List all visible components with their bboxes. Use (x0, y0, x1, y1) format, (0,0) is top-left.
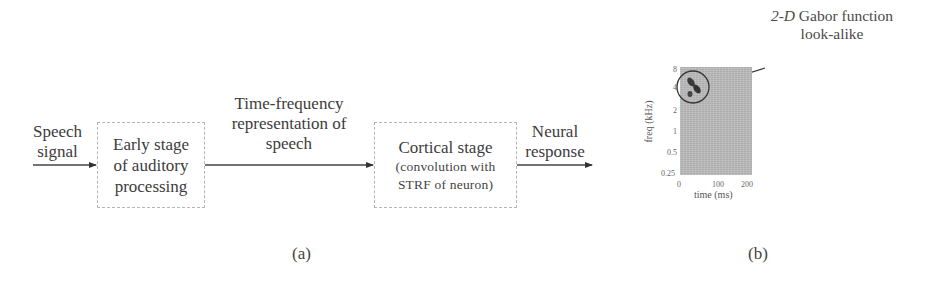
ytick-0.25: 0.25 (661, 169, 675, 178)
caption-b: (b) (748, 244, 768, 264)
x-axis-label: time (ms) (694, 189, 733, 200)
xtick-0: 0 (677, 180, 681, 189)
ytick-1: 1 (673, 127, 677, 136)
ytick-0.5: 0.5 (667, 148, 677, 157)
ytick-2: 2 (673, 106, 677, 115)
gabor-overlay (0, 0, 928, 285)
gabor-blob-3 (688, 91, 693, 97)
ytick-4: 4 (673, 83, 677, 92)
xtick-200: 200 (741, 180, 753, 189)
highlight-circle (677, 71, 709, 103)
xtick-100: 100 (712, 180, 724, 189)
ytick-8: 8 (673, 65, 677, 74)
y-axis-label: freq (kHz) (643, 101, 654, 143)
